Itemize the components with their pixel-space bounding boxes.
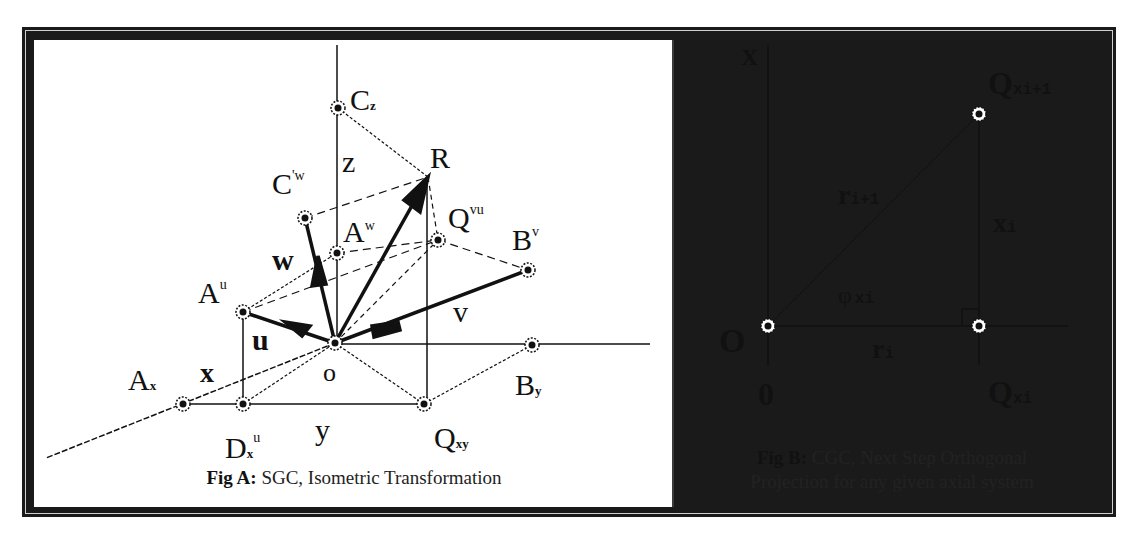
label-ri1: ri+1 <box>838 179 879 210</box>
label-ri: ri <box>872 333 894 364</box>
fig-a-caption-text: SGC, Isometric Transformation <box>257 467 502 488</box>
label-y: y <box>315 413 330 446</box>
label-qvu: Qvu <box>448 201 484 234</box>
label-x: x <box>200 357 214 388</box>
label-qxi1: Qxi+1 <box>988 65 1051 101</box>
label-o-b: O <box>719 322 745 359</box>
label-z: z <box>342 145 355 178</box>
fig-a-points <box>176 101 539 411</box>
label-au: Au <box>198 276 227 309</box>
fig-b-caption-line1: CGC, Next Step Orthogonal <box>807 447 1027 468</box>
fig-b-caption-line2: Projection for any given axial system <box>678 470 1106 494</box>
label-ax: Ax <box>128 363 157 396</box>
label-bv: Bv <box>512 223 539 256</box>
label-zero: 0 <box>758 376 774 412</box>
label-w: w <box>272 243 294 276</box>
label-xi: xi <box>993 207 1017 238</box>
fig-b-caption: Fig B: CGC, Next Step Orthogonal Project… <box>678 446 1106 494</box>
fig-a-caption: Fig A: SGC, Isometric Transformation <box>34 466 674 490</box>
label-x-b: X <box>741 44 759 70</box>
label-phi: φxi <box>838 282 874 308</box>
label-by: By <box>515 368 542 401</box>
label-o: o <box>323 358 336 387</box>
fig-a-caption-label: Fig A: <box>206 467 256 488</box>
label-v: v <box>453 295 468 328</box>
label-cz: Cz <box>350 83 376 116</box>
x-axis <box>46 343 335 458</box>
vector-v <box>335 270 528 343</box>
label-aw: Aw <box>343 215 376 248</box>
label-dxu: Dxu <box>225 430 260 464</box>
label-u: u <box>252 323 269 356</box>
label-cw: C'w <box>272 167 306 200</box>
label-qxy: Qxy <box>434 421 469 454</box>
fig-b-caption-label: Fig B: <box>757 447 807 468</box>
label-r: R <box>430 141 450 174</box>
label-qxi: Qxi <box>988 374 1032 410</box>
